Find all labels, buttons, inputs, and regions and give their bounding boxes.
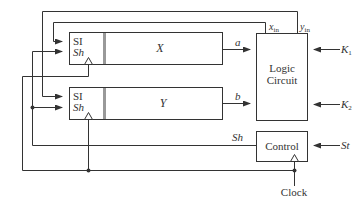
y-in-label: yin bbox=[299, 21, 310, 34]
register-x-label: X bbox=[155, 41, 164, 55]
k2-label: K2 bbox=[340, 98, 352, 112]
logic-circuit-label-line1: Logic bbox=[269, 62, 295, 74]
clock-junction-dot-control bbox=[293, 169, 297, 173]
b-label: b bbox=[235, 90, 241, 102]
a-label: a bbox=[235, 36, 241, 48]
clock-triangle-x bbox=[85, 58, 93, 65]
x-sh-label: Sh bbox=[73, 46, 85, 58]
serial-adder-diagram: SI Sh X SI Sh Y Logic Circuit Control a … bbox=[0, 0, 362, 201]
clock-triangle-y bbox=[85, 113, 93, 120]
control-label: Control bbox=[265, 140, 299, 152]
clock-junction-dot-y bbox=[87, 169, 91, 173]
x-in-label: xin bbox=[268, 21, 279, 34]
st-label: St bbox=[341, 139, 351, 151]
clock-x-wire bbox=[23, 62, 295, 171]
clock-label: Clock bbox=[281, 186, 308, 198]
register-y-divider bbox=[103, 88, 106, 119]
register-y-label: Y bbox=[160, 96, 168, 110]
logic-circuit-label-line2: Circuit bbox=[267, 74, 298, 86]
clock-triangle-control bbox=[291, 155, 299, 162]
y-sh-label: Sh bbox=[73, 101, 85, 113]
register-x bbox=[70, 33, 223, 65]
k1-label: K1 bbox=[340, 43, 352, 57]
register-y bbox=[70, 88, 223, 120]
sh-junction-dot bbox=[31, 106, 35, 110]
register-x-divider bbox=[103, 33, 106, 64]
sh-signal-label: Sh bbox=[232, 131, 244, 143]
